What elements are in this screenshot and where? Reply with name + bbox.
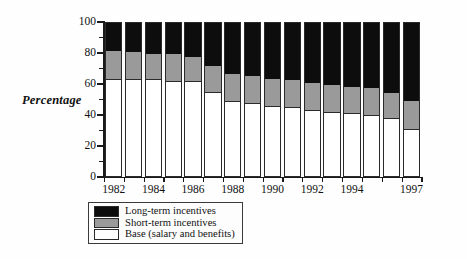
segment-short-term — [344, 87, 359, 115]
segment-short-term — [166, 54, 181, 82]
segment-long-term — [404, 23, 419, 101]
y-tick-40 — [97, 114, 103, 115]
legend-item-1: Short-term incentives — [94, 217, 235, 228]
segment-short-term — [225, 74, 240, 102]
legend-label-2: Base (salary and benefits) — [125, 229, 235, 240]
segment-short-term — [146, 54, 161, 80]
x-tick-8 — [263, 177, 264, 182]
legend-swatch-2 — [94, 229, 119, 240]
segment-divider — [324, 112, 339, 113]
segment-base — [285, 106, 300, 176]
bar-1984 — [145, 22, 162, 177]
segment-long-term — [265, 23, 280, 79]
y-minor-tick-10 — [99, 161, 103, 162]
segment-divider — [166, 81, 181, 82]
segment-divider — [364, 115, 379, 116]
segment-divider — [126, 79, 141, 80]
x-tick-label-1982: 1982 — [94, 183, 134, 196]
bar-1995 — [363, 22, 380, 177]
segment-short-term — [126, 52, 141, 80]
segment-long-term — [285, 23, 300, 80]
x-tick-label-1994: 1994 — [332, 183, 372, 196]
segment-divider — [106, 79, 121, 80]
segment-short-term — [404, 101, 419, 130]
segment-short-term — [285, 80, 300, 108]
x-tick-7 — [243, 177, 244, 182]
legend-item-2: Base (salary and benefits) — [94, 229, 235, 240]
bar-1991 — [284, 22, 301, 177]
x-tick-2 — [144, 177, 145, 182]
segment-base — [166, 80, 181, 176]
legend-item-0: Long-term incentives — [94, 206, 235, 217]
legend-swatch-1 — [94, 218, 119, 229]
segment-long-term — [146, 23, 161, 54]
segment-divider — [344, 113, 359, 114]
segment-long-term — [364, 23, 379, 88]
segment-short-term — [324, 85, 339, 113]
segment-long-term — [324, 23, 339, 85]
y-tick-80 — [97, 52, 103, 53]
x-tick-5 — [203, 177, 204, 182]
y-tick-label-60: 60 — [52, 78, 96, 90]
bar-1997 — [403, 22, 420, 177]
plot-area — [105, 22, 423, 177]
x-tick-label-1992: 1992 — [292, 183, 332, 196]
bar-1987 — [204, 22, 221, 177]
y-axis-title: Percentage — [22, 93, 82, 108]
bar-1986 — [184, 22, 201, 177]
segment-divider — [245, 103, 260, 104]
segment-base — [265, 105, 280, 176]
segment-divider — [146, 79, 161, 80]
x-tick-15 — [402, 177, 403, 182]
segment-base — [146, 78, 161, 176]
bar-1990 — [264, 22, 281, 177]
y-tick-0 — [97, 176, 103, 177]
y-minor-tick-30 — [99, 130, 103, 131]
segment-divider — [225, 101, 240, 102]
bar-1994 — [343, 22, 360, 177]
chart-legend: Long-term incentivesShort-term incentive… — [88, 202, 243, 244]
segment-long-term — [384, 23, 399, 93]
x-tick-13 — [362, 177, 363, 182]
x-tick-label-1988: 1988 — [213, 183, 253, 196]
segment-short-term — [185, 57, 200, 82]
segment-short-term — [205, 66, 220, 92]
segment-base — [384, 117, 399, 176]
y-tick-label-0: 0 — [52, 171, 96, 183]
bar-1989 — [244, 22, 261, 177]
x-tick-14 — [382, 177, 383, 182]
bar-1992 — [304, 22, 321, 177]
bar-1993 — [323, 22, 340, 177]
y-tick-label-40: 40 — [52, 109, 96, 121]
legend-swatch-0 — [94, 206, 119, 217]
y-tick-label-80: 80 — [52, 47, 96, 59]
segment-base — [245, 102, 260, 176]
bar-1982 — [105, 22, 122, 177]
segment-short-term — [245, 76, 260, 104]
segment-long-term — [344, 23, 359, 87]
segment-divider — [305, 110, 320, 111]
segment-divider — [185, 81, 200, 82]
segment-base — [344, 112, 359, 176]
segment-divider — [384, 118, 399, 119]
segment-base — [185, 80, 200, 176]
segment-base — [225, 100, 240, 176]
segment-short-term — [364, 88, 379, 116]
x-tick-9 — [282, 177, 283, 182]
x-tick-3 — [163, 177, 164, 182]
segment-base — [364, 114, 379, 176]
segment-long-term — [126, 23, 141, 52]
x-tick-16 — [421, 177, 422, 182]
segment-long-term — [245, 23, 260, 76]
stacked-bar-chart: Percentage 020406080100 1982198419861988… — [0, 0, 467, 259]
segment-long-term — [305, 23, 320, 83]
y-tick-label-100: 100 — [52, 16, 96, 28]
x-tick-12 — [342, 177, 343, 182]
x-tick-10 — [302, 177, 303, 182]
segment-base — [324, 111, 339, 176]
segment-base — [106, 78, 121, 176]
x-tick-4 — [183, 177, 184, 182]
x-tick-label-1986: 1986 — [173, 183, 213, 196]
segment-base — [404, 128, 419, 176]
x-tick-label-1990: 1990 — [253, 183, 293, 196]
